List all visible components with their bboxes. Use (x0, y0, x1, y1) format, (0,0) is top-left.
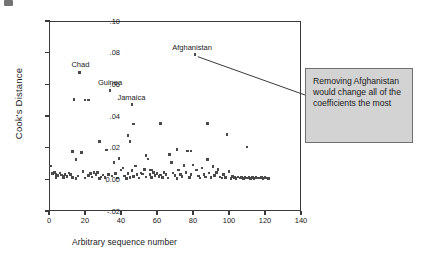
data-point (204, 176, 207, 179)
data-point (181, 175, 184, 178)
data-point (145, 176, 148, 179)
data-point (215, 171, 218, 174)
y-tick-mark (45, 147, 50, 148)
data-point (134, 165, 137, 168)
data-point (131, 169, 134, 172)
crop-artifact (4, 0, 13, 6)
data-point (161, 176, 164, 179)
data-point (131, 103, 134, 106)
data-point (75, 177, 78, 180)
data-point (118, 157, 121, 160)
data-point (192, 164, 195, 167)
data-point (194, 53, 197, 56)
data-point (190, 173, 193, 176)
data-point (147, 158, 150, 161)
x-tick-label: 80 (183, 216, 203, 225)
data-point (122, 167, 125, 170)
y-tick-mark (45, 84, 50, 85)
data-point (127, 134, 130, 137)
y-tick-label: .02 (110, 143, 120, 152)
x-tick-mark (192, 211, 193, 215)
y-tick-label: .10 (110, 17, 120, 26)
x-tick-label: 60 (147, 216, 167, 225)
y-tick-label: .08 (110, 48, 120, 57)
x-tick-mark (264, 211, 265, 215)
data-point (199, 177, 202, 180)
data-point (125, 177, 128, 180)
data-point (109, 89, 112, 92)
data-point (206, 122, 209, 125)
callout-box: Removing Afghanistan would change all of… (305, 68, 413, 143)
data-point (159, 122, 162, 125)
x-tick-mark (156, 211, 157, 215)
data-point (185, 171, 188, 174)
data-point (176, 177, 179, 180)
data-point (129, 140, 132, 143)
data-point (170, 161, 173, 164)
data-point (71, 176, 74, 179)
data-point (96, 171, 99, 174)
data-point (221, 177, 224, 180)
data-point (224, 176, 227, 179)
data-point (150, 176, 153, 179)
data-point (98, 140, 101, 143)
point-label-jamaica: Jamaica (117, 93, 145, 102)
data-point (77, 175, 80, 178)
x-tick-mark (84, 211, 85, 215)
x-tick-mark (48, 211, 49, 215)
data-point (49, 165, 52, 168)
y-tick-mark (45, 115, 50, 116)
data-point (105, 149, 108, 152)
x-axis-title: Arbitrary sequence number (72, 237, 177, 247)
data-point (186, 150, 189, 153)
data-point (190, 150, 193, 153)
x-tick-label: 20 (75, 216, 95, 225)
data-point (141, 173, 144, 176)
point-label-afghanistan: Afghanistan (172, 43, 212, 52)
data-point (75, 158, 78, 161)
data-point (73, 98, 76, 101)
x-tick-label: 120 (255, 216, 275, 225)
data-point (212, 165, 215, 168)
data-point (226, 133, 229, 136)
data-point (62, 177, 65, 180)
data-point (145, 154, 148, 157)
x-tick-mark (228, 211, 229, 215)
point-label-chad: Chad (71, 60, 89, 69)
data-point (78, 71, 81, 74)
point-label-guinea: Guinea (98, 78, 122, 87)
data-point (138, 177, 141, 180)
data-point (143, 168, 146, 171)
data-point (213, 174, 216, 177)
data-point (267, 177, 270, 180)
data-point (183, 164, 186, 167)
x-tick-label: 40 (111, 216, 131, 225)
data-point (57, 174, 60, 177)
data-point (87, 99, 90, 102)
y-tick-label: .04 (110, 112, 120, 121)
x-tick-label: 100 (219, 216, 239, 225)
data-point (188, 176, 191, 179)
y-axis-title: Cook's Distance (13, 34, 24, 174)
x-tick-mark (120, 211, 121, 215)
data-point (84, 177, 87, 180)
data-point (120, 169, 123, 172)
data-point (201, 167, 204, 170)
data-point (177, 169, 180, 172)
y-tick-mark (45, 179, 50, 180)
data-point (132, 123, 135, 126)
data-point (127, 172, 130, 175)
data-point (113, 161, 116, 164)
data-point (71, 150, 74, 153)
data-point (246, 146, 249, 149)
data-point (84, 99, 87, 102)
y-tick-label: -.02 (107, 207, 120, 216)
x-tick-label: 0 (39, 216, 59, 225)
data-point (195, 169, 198, 172)
x-tick-label: 140 (291, 216, 311, 225)
x-tick-mark (300, 211, 301, 215)
data-point (228, 170, 231, 173)
y-tick-mark (45, 52, 50, 53)
data-point (82, 170, 85, 173)
data-point (208, 172, 211, 175)
